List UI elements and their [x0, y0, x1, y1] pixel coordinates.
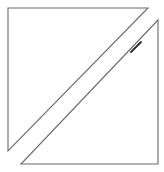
split-square-diagram: [0, 0, 164, 172]
upper-left-triangle: [8, 8, 148, 151]
diagram-canvas: [0, 0, 164, 172]
lower-right-triangle: [21, 20, 158, 164]
